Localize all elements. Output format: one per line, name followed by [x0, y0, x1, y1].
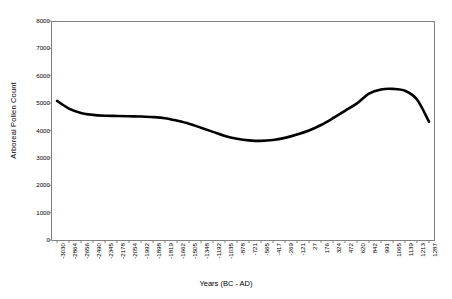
axis-lines [52, 21, 436, 241]
x-axis-title: Years (BC - AD) [0, 279, 452, 288]
arboreal-pollen-count-chart: Arboreal Pollen Count 010002000300040005… [0, 0, 452, 299]
plot-area [0, 0, 452, 299]
data-series-line [57, 89, 429, 141]
